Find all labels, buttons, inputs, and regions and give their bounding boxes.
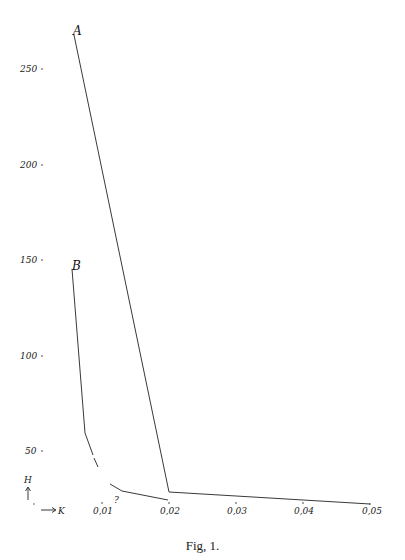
curve-a-label: A xyxy=(72,24,82,38)
x-axis-label: K xyxy=(57,506,66,516)
curve-b: B xyxy=(71,259,168,500)
y-tick-100: 100 xyxy=(20,351,37,361)
y-tick-150: 150 xyxy=(20,255,37,265)
axis-indicators: H K xyxy=(23,475,66,516)
y-axis-ticks: 250 200 150 100 50 xyxy=(19,64,43,456)
curve-a: A xyxy=(72,24,370,504)
svg-text:?: ? xyxy=(114,495,119,505)
x-tick-002: 0,02 xyxy=(160,506,180,516)
x-tick-001: 0,01 xyxy=(93,506,113,516)
figure-plot: 250 200 150 100 50 H K 0,01 ? 0,02 0,03 … xyxy=(0,0,405,560)
y-tick-200: 200 xyxy=(19,160,37,170)
y-tick-250: 250 xyxy=(19,64,37,74)
x-tick-004: 0,04 xyxy=(294,506,314,516)
y-axis-label: H xyxy=(23,475,32,485)
x-tick-003: 0,03 xyxy=(227,506,247,516)
x-tick-005: 0,05 xyxy=(362,506,382,516)
y-tick-50: 50 xyxy=(25,446,37,456)
x-axis-ticks: 0,01 ? 0,02 0,03 0,04 0,05 xyxy=(93,495,382,516)
figure-caption: Fig, 1. xyxy=(0,538,405,554)
